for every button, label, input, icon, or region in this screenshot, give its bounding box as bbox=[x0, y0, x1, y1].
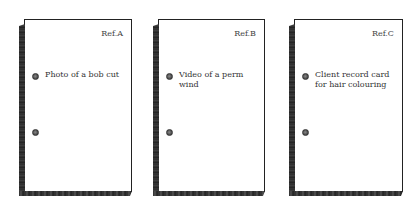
card-label: Photo of a bob cut bbox=[45, 70, 119, 80]
reference-card-b: Ref.B Video of a perm wind bbox=[158, 19, 265, 192]
card-ref: Ref.B bbox=[234, 29, 256, 38]
punch-hole-icon bbox=[166, 129, 173, 136]
card-ref: Ref.C bbox=[372, 29, 394, 38]
reference-card-c: Ref.C Client record card for hair colour… bbox=[294, 19, 403, 192]
punch-hole-icon bbox=[166, 73, 173, 80]
punch-hole-icon bbox=[302, 73, 309, 80]
punch-hole-icon bbox=[32, 129, 39, 136]
card-label: Video of a perm wind bbox=[179, 70, 264, 90]
card-label: Client record card for hair colouring bbox=[315, 70, 389, 90]
reference-card-a: Ref.A Photo of a bob cut bbox=[24, 19, 132, 192]
punch-hole-icon bbox=[32, 73, 39, 80]
punch-hole-icon bbox=[302, 129, 309, 136]
card-ref: Ref.A bbox=[101, 29, 123, 38]
